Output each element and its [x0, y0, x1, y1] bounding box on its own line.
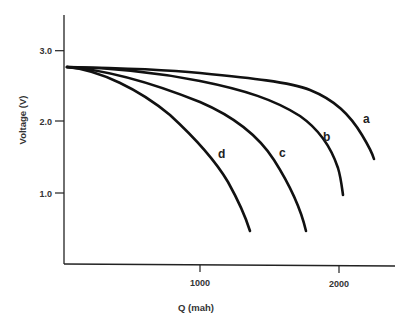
x-axis-title: Q (mah) [178, 302, 214, 313]
x-tick-label-2000: 2000 [329, 279, 349, 289]
curve-label-b: b [323, 130, 330, 144]
curve-label-a: a [363, 112, 370, 126]
x-tick-label-1000: 1000 [190, 278, 210, 288]
curve-label-d: d [218, 147, 225, 161]
discharge-chart: 3.0 2.0 1.0 1000 2000 Q (mah) Voltage (V… [0, 0, 395, 323]
curve-c [67, 67, 306, 231]
y-tick-label-3: 3.0 [39, 46, 52, 56]
y-axis-title: Voltage (V) [17, 96, 28, 145]
y-tick-label-1: 1.0 [39, 189, 52, 199]
x-axis-line [64, 264, 395, 266]
y-tick-label-2: 2.0 [39, 117, 52, 127]
curve-label-c: c [279, 146, 286, 160]
